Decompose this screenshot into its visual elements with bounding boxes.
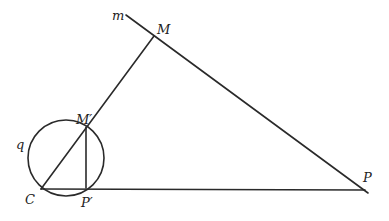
circle-q bbox=[28, 120, 104, 196]
line-CP bbox=[41, 189, 365, 190]
label-P: P bbox=[362, 170, 372, 185]
label-q: q bbox=[16, 137, 24, 152]
line-CM bbox=[41, 36, 154, 189]
label-m: m bbox=[112, 8, 124, 23]
label-C: C bbox=[25, 192, 35, 207]
label-M-prime: M′ bbox=[75, 112, 92, 127]
line-m bbox=[126, 15, 368, 193]
label-M: M bbox=[156, 22, 171, 37]
label-P-prime: P′ bbox=[80, 195, 93, 210]
geometry-diagram: m M M′ q C P′ P bbox=[0, 0, 389, 221]
